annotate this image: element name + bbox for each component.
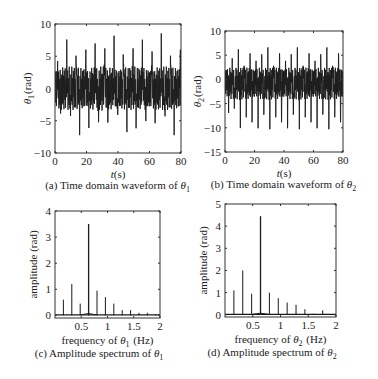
plot-area — [225, 216, 336, 315]
svg-text:amplitude (rad): amplitude (rad) — [27, 230, 40, 298]
x-tick-label: 1 — [278, 319, 284, 331]
x-tick-label: 0 — [222, 154, 228, 166]
y-tick-label: −15 — [204, 146, 222, 158]
y-tick-label: −5 — [209, 98, 221, 110]
x-tick-label: 60 — [144, 155, 156, 167]
x-tick-label: 0 — [52, 155, 58, 167]
y-tick-label: 0 — [216, 309, 222, 321]
y-tick-label: 5 — [216, 198, 222, 210]
x-tick-label: 20 — [249, 154, 261, 166]
panel-d-amplitude-spectrum-theta2: 0123450.511.52frequency of θ2 (Hz)amplit… — [197, 198, 339, 361]
y-tick-label: 1 — [46, 283, 52, 295]
x-tick-label: 20 — [81, 155, 93, 167]
caption: (c) Amplitude spectrum of θ1 — [35, 347, 164, 362]
y-tick-label: 4 — [216, 220, 222, 232]
y-tick-label: −10 — [34, 147, 52, 159]
plot-area — [55, 224, 160, 315]
y-tick-label: 5 — [216, 49, 222, 61]
x-tick-label: 40 — [113, 155, 125, 167]
y-axis-label: amplitude (rad) — [197, 226, 210, 294]
y-tick-label: −10 — [204, 122, 222, 134]
caption: (a) Time domain waveform of θ1 — [45, 179, 191, 194]
figure: −10−50510020406080t(s)θ1 (rad)(a) Time d… — [0, 0, 378, 379]
y-tick-label: 1 — [216, 287, 222, 299]
plot-area — [55, 33, 181, 135]
y-axis-label: amplitude (rad) — [27, 230, 40, 298]
caption: (b) Time domain waveform of θ2 — [211, 178, 357, 193]
y-axis-label: θ1 (rad) — [21, 72, 36, 104]
y-tick-label: 3 — [46, 231, 52, 243]
y-tick-label: 3 — [216, 242, 222, 254]
y-tick-label: −5 — [39, 115, 51, 127]
x-tick-label: 1 — [105, 320, 111, 332]
y-tick-label: 0 — [46, 83, 52, 95]
y-tick-label: 0 — [216, 73, 222, 85]
axes-box — [225, 204, 336, 317]
y-tick-label: 2 — [216, 264, 222, 276]
y-tick-label: 0 — [46, 309, 52, 321]
y-tick-label: 4 — [46, 205, 52, 217]
x-tick-label: 2 — [333, 319, 339, 331]
x-tick-label: 1.5 — [301, 319, 315, 331]
y-tick-label: 10 — [40, 18, 52, 30]
panel-c-amplitude-spectrum-theta1: 012340.511.52frequency of θ1 (Hz)amplitu… — [27, 205, 164, 362]
caption: (d) Amplitude spectrum of θ2 — [207, 346, 337, 361]
x-tick-label: 0.5 — [74, 320, 88, 332]
x-tick-label: 80 — [176, 155, 188, 167]
waveform-line — [55, 33, 181, 135]
y-tick-label: 5 — [46, 50, 52, 62]
x-tick-label: 0.5 — [246, 319, 260, 331]
y-tick-label: 10 — [210, 25, 222, 37]
y-axis-label: θ2 (rad) — [191, 75, 206, 107]
axes-box — [55, 211, 160, 318]
x-tick-label: 60 — [308, 154, 320, 166]
x-tick-label: 2 — [157, 320, 163, 332]
x-tick-label: 40 — [279, 154, 291, 166]
x-tick-label: 80 — [338, 154, 350, 166]
svg-text:amplitude (rad): amplitude (rad) — [197, 226, 210, 294]
y-tick-label: 2 — [46, 257, 52, 269]
waveform-line — [225, 47, 343, 129]
x-tick-label: 1.5 — [127, 320, 141, 332]
panel-a-time-waveform-theta1: −10−50510020406080t(s)θ1 (rad)(a) Time d… — [21, 18, 191, 194]
plot-area — [225, 47, 343, 129]
panel-b-time-waveform-theta2: −15−10−50510020406080t(s)θ2 (rad)(b) Tim… — [191, 25, 357, 193]
svg-text:θ2 (rad): θ2 (rad) — [191, 75, 206, 107]
svg-text:θ1 (rad): θ1 (rad) — [21, 72, 36, 104]
